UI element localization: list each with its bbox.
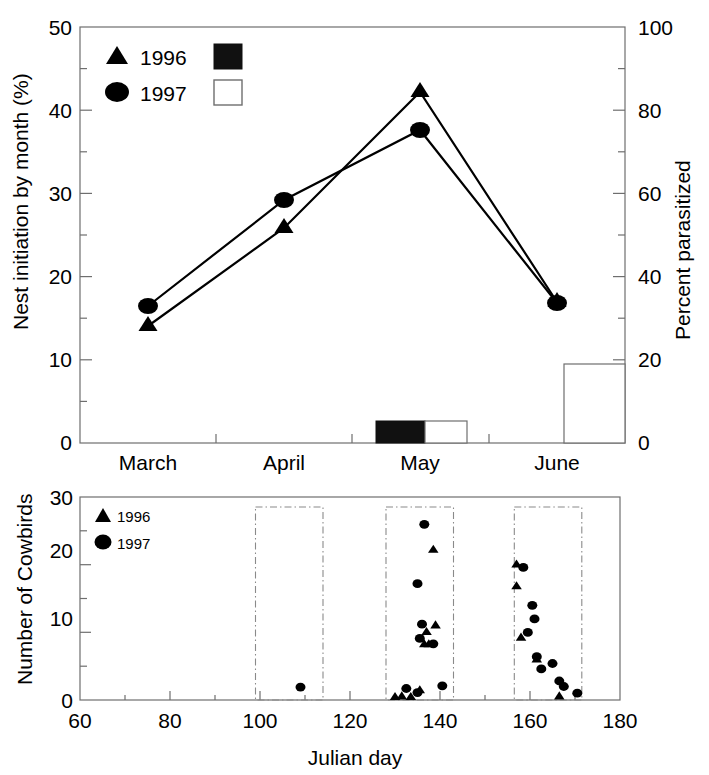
legend-label-1996-bottom: 1996	[117, 508, 150, 525]
bottom-panel-svg: Number of Cowbirds Julian day 30 20 10 0…	[0, 480, 709, 775]
legend-circle-icon	[105, 82, 129, 102]
top-panel-right-ticks	[613, 69, 625, 402]
top-panel-y2tick-20: 20	[638, 348, 661, 371]
annotation-box-3	[514, 507, 582, 700]
bar-june-1997	[564, 364, 625, 443]
legend-circle-icon-bottom	[95, 535, 112, 550]
xtick-label-may: May	[400, 451, 440, 474]
bottom-panel-xlabel: Julian day	[308, 746, 403, 769]
legend-triangle-icon	[106, 46, 128, 64]
series-line-1996	[148, 92, 557, 326]
top-panel-left-ticks	[80, 69, 92, 402]
bottom-ytick-30: 30	[50, 486, 73, 509]
top-panel-ytick-30: 30	[49, 182, 72, 205]
bottom-xtick-120: 120	[332, 709, 367, 732]
bottom-xtick-100: 100	[242, 709, 277, 732]
legend-label-1997: 1997	[140, 82, 187, 105]
top-panel-y2tick-80: 80	[638, 99, 661, 122]
bottom-xtick-80: 80	[158, 709, 181, 732]
series-markers-1996	[139, 82, 567, 331]
top-panel-ytick-0: 0	[60, 431, 72, 454]
bottom-panel-legend: 1996 1997	[95, 508, 151, 552]
bottom-xtick-60: 60	[68, 709, 91, 732]
legend-label-1996: 1996	[140, 46, 187, 69]
scatter-points-1997	[296, 520, 583, 698]
bar-may-1996	[376, 421, 425, 443]
bottom-panel: Number of Cowbirds Julian day 30 20 10 0…	[0, 480, 709, 775]
xtick-label-april: April	[263, 451, 305, 474]
xtick-label-june: June	[534, 451, 580, 474]
bottom-xtick-180: 180	[602, 709, 637, 732]
legend-open-square-icon	[214, 80, 242, 105]
bottom-ytick-10: 10	[50, 607, 73, 630]
top-panel-legend: 1996 1997	[105, 44, 242, 105]
bottom-panel-x-ticks	[125, 691, 575, 700]
top-panel-y2tick-40: 40	[638, 265, 661, 288]
top-panel-ytick-10: 10	[49, 348, 72, 371]
bottom-panel-ylabel: Number of Cowbirds	[13, 494, 36, 685]
top-panel-y2tick-60: 60	[638, 182, 661, 205]
top-panel-ytick-20: 20	[49, 265, 72, 288]
legend-triangle-icon-bottom	[95, 508, 111, 522]
series-line-1997	[148, 130, 557, 306]
scatter-points-1996	[390, 545, 565, 700]
top-panel-svg: Nest initiation by month (%) Percent par…	[0, 0, 709, 480]
top-panel-ytick-40: 40	[49, 99, 72, 122]
top-panel-y2label: Percent parasitized	[671, 160, 694, 340]
top-panel: Nest initiation by month (%) Percent par…	[0, 0, 709, 480]
bottom-xtick-140: 140	[422, 709, 457, 732]
top-panel-y2tick-100: 100	[638, 16, 673, 39]
bottom-ytick-20: 20	[50, 539, 73, 562]
top-panel-y2tick-0: 0	[638, 431, 650, 454]
top-panel-ytick-50: 50	[49, 16, 72, 39]
xtick-label-march: March	[119, 451, 177, 474]
legend-filled-square-icon	[214, 44, 242, 69]
bar-may-1997	[425, 421, 467, 443]
top-panel-ylabel: Nest initiation by month (%)	[9, 73, 32, 330]
annotation-box-2	[386, 507, 454, 700]
annotation-box-1	[256, 507, 324, 700]
figure-root: Nest initiation by month (%) Percent par…	[0, 0, 709, 775]
bottom-panel-y-ticks	[80, 531, 91, 666]
legend-label-1997-bottom: 1997	[117, 535, 150, 552]
bottom-xtick-160: 160	[512, 709, 547, 732]
